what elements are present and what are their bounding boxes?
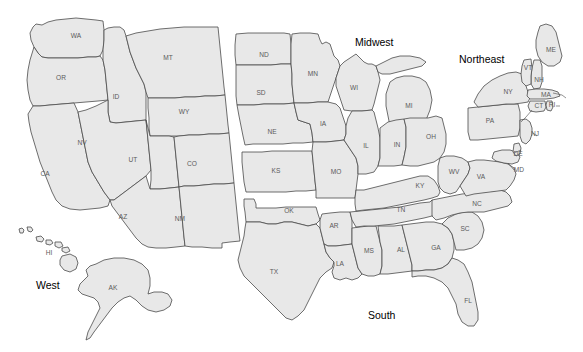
state-label-ca: CA bbox=[40, 170, 50, 177]
state-shape-hi-island-5[interactable] bbox=[55, 242, 63, 248]
region-label-south: South bbox=[368, 310, 395, 321]
state-shape-mn[interactable] bbox=[291, 33, 340, 103]
state-label-ga: GA bbox=[431, 244, 441, 251]
state-shape-hi-island-2[interactable] bbox=[27, 227, 33, 232]
state-label-mt: MT bbox=[163, 54, 173, 61]
state-shape-hi-island-big[interactable] bbox=[60, 254, 78, 272]
state-label-co: CO bbox=[187, 160, 197, 167]
state-label-ok: OK bbox=[284, 207, 294, 214]
state-label-in: IN bbox=[394, 141, 401, 148]
state-label-az: AZ bbox=[119, 213, 127, 220]
state-label-nc: NC bbox=[472, 200, 482, 207]
state-shape-ak[interactable] bbox=[78, 258, 172, 340]
state-label-ma: MA bbox=[541, 91, 551, 98]
state-shape-tx[interactable] bbox=[238, 222, 334, 320]
state-label-la: LA bbox=[336, 260, 345, 267]
state-label-mn: MN bbox=[308, 70, 318, 77]
state-label-hi: HI bbox=[46, 249, 53, 256]
state-label-ky: KY bbox=[416, 182, 425, 189]
west-region-shapes bbox=[19, 18, 240, 340]
state-label-ne: NE bbox=[267, 128, 277, 135]
state-label-wy: WY bbox=[179, 108, 190, 115]
state-label-nj: NJ bbox=[531, 130, 539, 137]
state-label-oh: OH bbox=[426, 133, 436, 140]
state-shape-nd[interactable] bbox=[235, 33, 291, 65]
state-label-pa: PA bbox=[486, 117, 495, 124]
state-label-ar: AR bbox=[329, 222, 338, 229]
state-label-ri: RI bbox=[549, 101, 556, 108]
state-shape-sd[interactable] bbox=[236, 64, 294, 105]
state-label-il: IL bbox=[363, 142, 369, 149]
state-label-tn: TN bbox=[397, 206, 406, 213]
state-label-mi: MI bbox=[405, 102, 412, 109]
state-label-sc: SC bbox=[460, 225, 469, 232]
state-shape-oh[interactable] bbox=[402, 116, 446, 166]
state-label-ia: IA bbox=[320, 120, 327, 127]
state-label-ut: UT bbox=[129, 156, 138, 163]
state-shape-hi-island-1[interactable] bbox=[19, 228, 24, 233]
state-label-nv: NV bbox=[77, 139, 87, 146]
state-shape-in[interactable] bbox=[378, 119, 406, 166]
state-label-sd: SD bbox=[256, 89, 265, 96]
state-label-md: MD bbox=[514, 166, 524, 173]
state-label-ks: KS bbox=[272, 167, 281, 174]
state-shape-nh[interactable] bbox=[531, 60, 542, 89]
state-shape-co[interactable] bbox=[174, 133, 234, 187]
us-regions-map: WAORIDMTWYNVUTCOCAAZNMAKHINDSDNEKSMNIAMO… bbox=[0, 0, 583, 352]
state-label-nh: NH bbox=[534, 76, 544, 83]
state-label-de: DE bbox=[513, 150, 523, 157]
state-label-fl: FL bbox=[464, 297, 472, 304]
state-shape-mi-upper[interactable] bbox=[376, 56, 426, 74]
state-label-wv: WV bbox=[449, 168, 460, 175]
state-shape-hi-island-4[interactable] bbox=[46, 240, 53, 245]
state-label-ny: NY bbox=[503, 88, 513, 95]
state-label-or: OR bbox=[56, 74, 66, 81]
state-label-al: AL bbox=[397, 246, 405, 253]
state-label-ct: CT bbox=[535, 102, 544, 109]
state-shape-hi-island-6[interactable] bbox=[62, 247, 70, 253]
state-shape-ar[interactable] bbox=[320, 212, 352, 246]
state-label-me: ME bbox=[546, 46, 556, 53]
state-shape-wi[interactable] bbox=[336, 54, 380, 111]
state-label-ms: MS bbox=[364, 247, 374, 254]
state-label-nm: NM bbox=[175, 215, 185, 222]
state-label-nd: ND bbox=[259, 51, 269, 58]
northeast-region-shapes bbox=[468, 24, 562, 144]
region-label-northeast: Northeast bbox=[459, 54, 505, 65]
state-label-ak: AK bbox=[109, 284, 118, 291]
state-label-mo: MO bbox=[331, 168, 342, 175]
region-label-midwest: Midwest bbox=[355, 37, 394, 48]
state-shape-wy[interactable] bbox=[148, 95, 229, 136]
state-label-vt: VT bbox=[524, 64, 532, 71]
state-label-wa: WA bbox=[71, 32, 82, 39]
region-label-west: West bbox=[36, 280, 60, 291]
state-shape-nm[interactable] bbox=[179, 183, 240, 248]
state-label-id: ID bbox=[113, 93, 120, 100]
state-label-tx: TX bbox=[270, 268, 279, 275]
state-shape-hi-island-3[interactable] bbox=[36, 236, 44, 242]
state-label-wi: WI bbox=[350, 84, 358, 91]
state-label-va: VA bbox=[477, 173, 486, 180]
state-shape-wa[interactable] bbox=[30, 18, 104, 58]
